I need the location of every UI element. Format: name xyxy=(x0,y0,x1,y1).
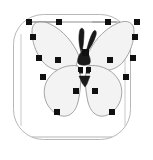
node-right-hindwing-bottom[interactable] xyxy=(109,109,115,115)
node-thorax-center[interactable] xyxy=(82,49,89,56)
vector-canvas[interactable] xyxy=(0,0,153,160)
node-left-wing-top-outer[interactable] xyxy=(26,19,32,25)
node-abdomen-left[interactable] xyxy=(78,67,83,72)
left-forewing[interactable] xyxy=(32,21,79,70)
node-right-abdomen-join[interactable] xyxy=(92,88,98,94)
node-left-hindwing-bottom[interactable] xyxy=(54,109,60,115)
right-forewing[interactable] xyxy=(87,21,134,70)
node-abdomen-right[interactable] xyxy=(86,67,91,72)
node-right-wing-inner-mid[interactable] xyxy=(105,19,111,25)
node-left-hindwing-outer[interactable] xyxy=(40,74,46,80)
node-right-wing-upper-edge[interactable] xyxy=(132,34,138,40)
left-antenna[interactable] xyxy=(79,28,84,52)
right-hindwing[interactable] xyxy=(85,66,121,117)
vector-artwork[interactable] xyxy=(0,0,153,160)
node-left-wing-inner-mid[interactable] xyxy=(56,19,62,25)
node-right-hindwing-outer[interactable] xyxy=(123,74,129,80)
node-right-wing-top-outer[interactable] xyxy=(134,19,140,25)
node-left-wing-mid-outer[interactable] xyxy=(36,55,42,61)
node-left-abdomen-join[interactable] xyxy=(73,88,79,94)
node-left-wing-inner-low[interactable] xyxy=(55,57,61,63)
node-right-wing-mid-outer[interactable] xyxy=(130,55,136,61)
node-left-wing-upper-edge[interactable] xyxy=(30,34,36,40)
node-right-wing-inner-low[interactable] xyxy=(107,57,113,63)
